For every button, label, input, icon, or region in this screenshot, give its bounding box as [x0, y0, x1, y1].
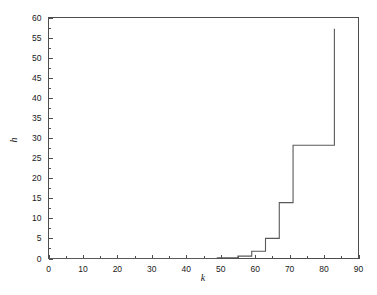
y-tick-label: 50	[32, 53, 42, 63]
y-tick-label: 0	[37, 254, 42, 264]
series-step-line	[49, 29, 335, 259]
y-tick-label: 15	[32, 193, 42, 203]
x-tick-label: 30	[147, 264, 157, 274]
x-tick-label: 40	[182, 264, 192, 274]
y-tick-label: 10	[32, 213, 42, 223]
x-tick-label: 70	[285, 264, 295, 274]
y-tick-label: 20	[32, 173, 42, 183]
y-tick-label: 60	[32, 13, 42, 23]
y-axis-tick-labels: 051015202530354045505560	[32, 13, 42, 264]
y-axis-title: h	[8, 138, 19, 143]
y-tick-label: 30	[32, 133, 42, 143]
y-tick-label: 40	[32, 93, 42, 103]
data-series-group	[49, 29, 335, 259]
step-chart-plot: 051015202530354045505560 010203040506070…	[0, 0, 377, 295]
y-tick-label: 45	[32, 73, 42, 83]
x-tick-label: 20	[113, 264, 123, 274]
y-tick-label: 35	[32, 113, 42, 123]
y-axis-ticks	[49, 19, 53, 260]
x-tick-label: 50	[216, 264, 226, 274]
x-axis-title: k	[201, 272, 206, 283]
y-tick-label: 5	[37, 233, 42, 243]
x-tick-label: 80	[319, 264, 329, 274]
y-tick-label: 55	[32, 33, 42, 43]
x-tick-label: 10	[78, 264, 88, 274]
x-tick-label: 90	[354, 264, 364, 274]
chart-figure: 051015202530354045505560 010203040506070…	[0, 0, 377, 295]
plot-frame	[49, 18, 359, 259]
x-tick-label: 0	[46, 264, 51, 274]
x-tick-label: 60	[250, 264, 260, 274]
y-tick-label: 25	[32, 153, 42, 163]
